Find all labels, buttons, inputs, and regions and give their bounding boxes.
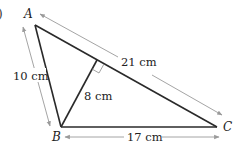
label-ac-length: 21 cm xyxy=(121,55,157,69)
triangle xyxy=(35,25,217,127)
part-label: ) xyxy=(0,7,3,21)
label-altitude-length: 8 cm xyxy=(84,89,112,103)
vertex-label-b: B xyxy=(51,130,61,144)
label-bc-length: 17 cm xyxy=(127,130,163,144)
dimension-arrow-ac-right xyxy=(152,75,222,115)
edge-ac xyxy=(35,25,217,127)
vertex-label-c: C xyxy=(223,120,232,134)
label-ab-length: 10 cm xyxy=(13,69,49,83)
vertex-label-a: A xyxy=(23,7,33,21)
triangle-diagram: ) A B C 10 cm 21 cm 17 cm 8 cm xyxy=(0,0,239,149)
